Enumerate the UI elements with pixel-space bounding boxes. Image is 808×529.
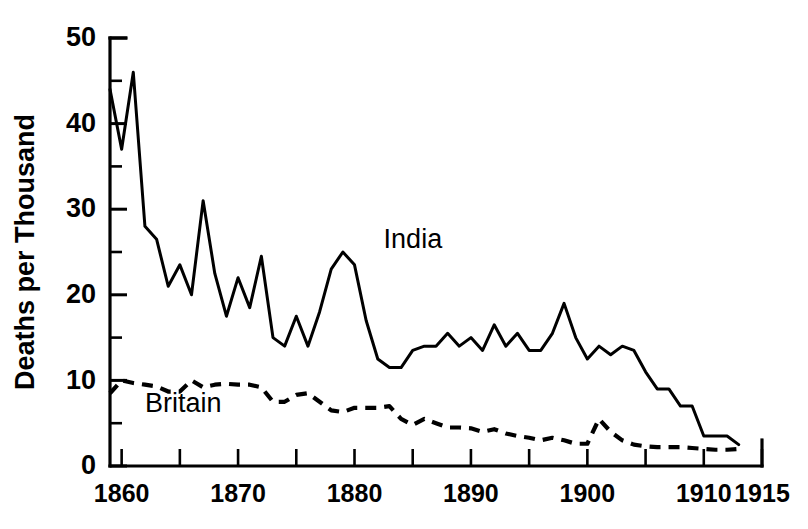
chart-figure: Deaths per Thousand 01020304050 18601870… <box>0 0 808 529</box>
x-tick-label-1900: 1900 <box>560 479 616 507</box>
x-tick-label-1910: 1910 <box>676 479 732 507</box>
x-axis-ticks <box>122 449 762 466</box>
y-axis-tick-labels: 01020304050 <box>66 22 96 480</box>
y-tick-label-40: 40 <box>66 108 96 138</box>
series-label-britain: Britain <box>145 388 222 418</box>
y-tick-label-10: 10 <box>66 365 96 395</box>
x-tick-label-1860: 1860 <box>94 479 150 507</box>
y-tick-label-20: 20 <box>66 279 96 309</box>
x-tick-label-1915: 1915 <box>734 479 790 507</box>
x-axis-tick-labels: 1860187018801890190019101915 <box>94 479 790 507</box>
y-tick-label-0: 0 <box>81 450 96 480</box>
y-tick-label-30: 30 <box>66 193 96 223</box>
x-tick-label-1870: 1870 <box>210 479 266 507</box>
y-tick-label-50: 50 <box>66 22 96 52</box>
x-tick-label-1880: 1880 <box>327 479 383 507</box>
series-label-india: India <box>384 224 444 254</box>
line-chart: Deaths per Thousand 01020304050 18601870… <box>0 0 808 529</box>
x-tick-label-1890: 1890 <box>443 479 499 507</box>
y-axis-title: Deaths per Thousand <box>10 114 40 390</box>
